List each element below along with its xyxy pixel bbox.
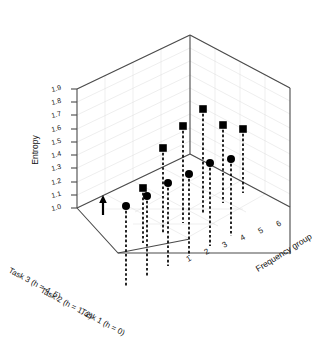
stem-point	[122, 202, 130, 286]
z-axis-title: Entropy	[30, 135, 40, 165]
z-tick-label: 1.7	[51, 110, 62, 119]
z-tick-label: 1.9	[51, 84, 62, 93]
y-tick-label-task1: Task 1 (h = 0)	[79, 307, 127, 338]
up-arrow-icon	[99, 195, 107, 215]
x-tick-label: 2	[203, 246, 212, 256]
x-tick-label: 5	[257, 225, 266, 235]
stem-point	[206, 159, 214, 246]
x-tick-label: 4	[239, 232, 248, 242]
z-tick-label: 1.5	[51, 137, 62, 146]
chart-container: 1.9 1.8 1.7 1.6 1.5 1.4 1.3 1.2 1.1 1.0 …	[0, 0, 325, 349]
x-tick-label: 1	[185, 253, 194, 263]
z-tick-label: 1.0	[51, 203, 62, 212]
z-tick-labels: 1.9 1.8 1.7 1.6 1.5 1.4 1.3 1.2 1.1 1.0	[51, 84, 62, 212]
stem-point	[227, 155, 235, 236]
stem-point	[159, 144, 167, 233]
z-tick-label: 1.6	[51, 124, 62, 133]
x-axis-title: Frequency group	[254, 231, 314, 274]
stem-point	[185, 170, 193, 256]
y-tick-labels: Task 3 (h = 4, 5) Task 2 (h = 1, 2) Task…	[7, 266, 127, 338]
stem-point	[239, 125, 247, 193]
z-tick-label: 1.2	[51, 177, 62, 186]
z-tick-label: 1.3	[51, 163, 62, 172]
x-tick-label: 3	[221, 239, 230, 249]
z-axis-ticks	[71, 89, 77, 208]
stem-plot-svg: 1.9 1.8 1.7 1.6 1.5 1.4 1.3 1.2 1.1 1.0 …	[0, 0, 325, 349]
z-tick-label: 1.8	[51, 97, 62, 106]
z-tick-label: 1.1	[51, 190, 62, 199]
x-tick-label: 6	[275, 218, 284, 228]
z-tick-label: 1.4	[51, 150, 62, 159]
stem-point	[143, 192, 151, 276]
